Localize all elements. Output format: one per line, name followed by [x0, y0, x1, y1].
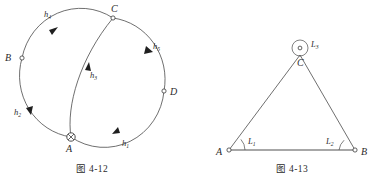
point-label-A: A — [65, 143, 73, 154]
station-marker-D — [162, 89, 166, 93]
angle-arc-L1 — [241, 139, 245, 150]
route-label-h2: h2 — [14, 107, 21, 118]
angle-arc-L3-center-dot — [298, 46, 302, 50]
route-path-h4 — [22, 8, 113, 58]
vertex-label-A: A — [215, 146, 223, 157]
benchmark-marker-A — [67, 133, 75, 141]
route-path-h2 — [20, 58, 71, 137]
station-marker-B — [20, 56, 24, 60]
point-label-B: B — [5, 52, 11, 63]
vertex-marker-A — [227, 148, 231, 152]
route-path-h1 — [71, 91, 164, 147]
figure-pair-container: h4 h5 h1 h2 h3 B C D A 图 4-12 — [0, 0, 387, 184]
route-label-h4: h4 — [44, 9, 51, 20]
angle-label-L1: L1 — [247, 136, 256, 147]
angle-label-L3: L3 — [310, 39, 319, 50]
angle-arc-L2 — [339, 140, 344, 150]
vertex-marker-B — [353, 148, 357, 152]
station-marker-C — [111, 16, 115, 20]
angle-label-L2: L2 — [325, 136, 334, 147]
arrow-h1 — [112, 127, 120, 134]
triangle-side-AC — [229, 55, 300, 150]
figure-4-12: h4 h5 h1 h2 h3 B C D A 图 4-12 — [5, 3, 178, 174]
arrow-h5 — [144, 46, 153, 54]
point-label-C: C — [111, 3, 118, 14]
figure-4-13: L1 L2 L3 A B C 图 4-13 — [215, 39, 367, 174]
figure-caption-4-13: 图 4-13 — [276, 164, 308, 174]
route-label-h1: h1 — [122, 138, 129, 149]
figure-caption-4-12: 图 4-12 — [76, 164, 108, 174]
vertex-label-B: B — [361, 146, 367, 157]
route-label-h3: h3 — [90, 70, 97, 81]
point-label-D: D — [169, 86, 178, 97]
vertex-label-C: C — [297, 57, 304, 68]
route-path-h5 — [113, 18, 165, 91]
route-label-h5: h5 — [153, 41, 160, 52]
arrow-h4 — [49, 27, 58, 35]
